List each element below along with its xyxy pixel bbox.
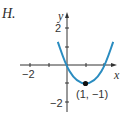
x-tick-label-neg2: −2 <box>22 68 35 80</box>
y-tick-label-neg2: −2 <box>50 97 63 109</box>
parabola-curve <box>58 42 113 84</box>
vertex-point <box>83 81 88 86</box>
y-tick-label-2: 2 <box>55 22 61 34</box>
x-axis-label: x <box>113 68 120 82</box>
parabola-chart: −2 2 −2 x y (1, −1) <box>0 0 122 117</box>
y-axis-label: y <box>57 9 64 23</box>
y-axis-arrow-icon <box>65 12 69 18</box>
vertex-label: (1, −1) <box>76 88 108 100</box>
x-axis-arrow-icon <box>111 63 117 67</box>
